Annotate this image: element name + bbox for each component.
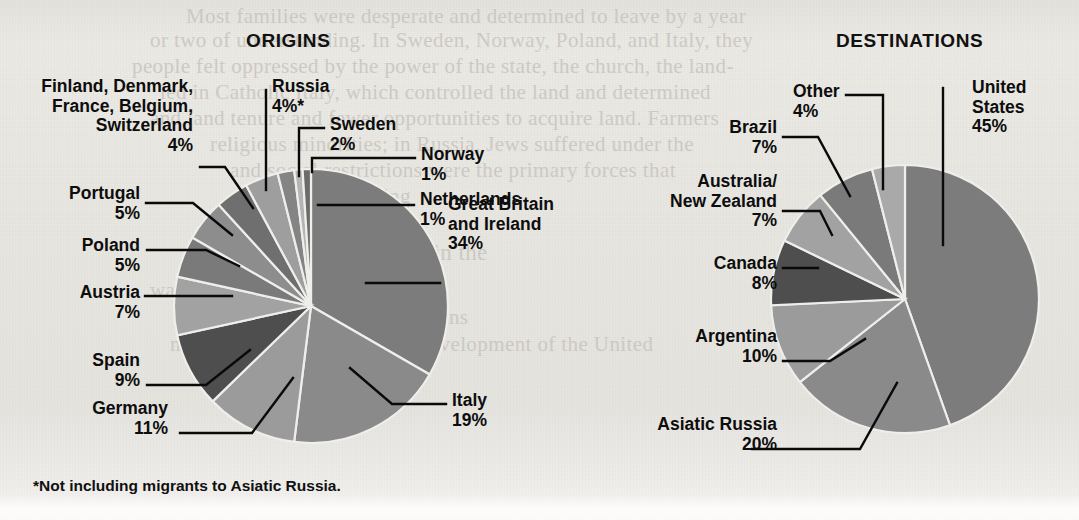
pie-label-portugal: Portugal 5% [25,184,140,223]
page-background: Most families were desperate and determi… [0,0,1079,520]
pie-origins [174,169,448,443]
pie-label-russia: Russia 4%* [272,77,329,116]
pie-label-italy: Italy 19% [452,391,487,430]
pie-label-asiatic-russia: Asiatic Russia 20% [612,415,777,454]
pie-label-finland-denmark-france-belgium-switzerland: Finland, Denmark, France, Belgium, Switz… [20,77,193,155]
pie-destinations [771,165,1039,433]
pie-label-brazil: Brazil 7% [653,118,777,157]
chart-title-destinations: DESTINATIONS [836,30,983,52]
pie-label-sweden: Sweden 2% [330,115,396,154]
pie-label-austria: Austria 7% [30,283,140,322]
pie-label-germany: Germany 11% [43,399,168,438]
pie-label-other: Other 4% [793,82,840,121]
pie-label-australia-new-zealand: Australia/ New Zealand 7% [595,172,777,231]
pie-label-canada: Canada 8% [640,254,777,293]
chart-title-origins: ORIGINS [246,30,330,52]
pie-label-poland: Poland 5% [37,236,140,275]
pie-label-united-states: United States 45% [972,78,1026,137]
pie-label-spain: Spain 9% [40,351,140,390]
footnote-asiatic-russia: *Not including migrants to Asiatic Russi… [33,477,341,495]
pie-label-norway: Norway 1% [421,145,484,184]
pie-label-netherlands: Netherlands 1% [420,190,521,229]
pie-label-argentina: Argentina 10% [628,327,777,366]
